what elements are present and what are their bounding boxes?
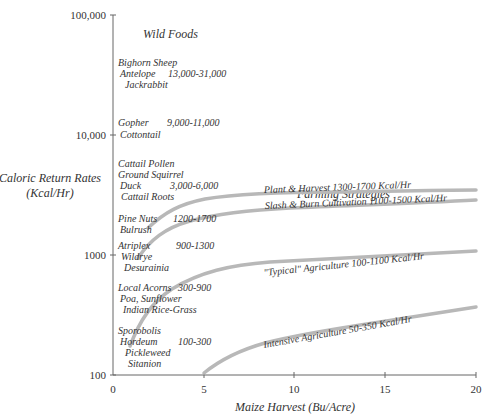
svg-text:3,000-6,000: 3,000-6,000 bbox=[169, 180, 218, 191]
x-axis-label: Maize Harvest (Bu/Acre) bbox=[234, 400, 355, 414]
svg-text:Desurainia: Desurainia bbox=[123, 262, 169, 273]
y-axis-label-line2: (Kcal/Hr) bbox=[26, 186, 73, 200]
svg-text:Pine Nuts: Pine Nuts bbox=[117, 213, 157, 224]
y-tick-label: 1000 bbox=[84, 249, 107, 261]
curve-intensive-agriculture bbox=[204, 307, 476, 373]
y-tick-label: 10,000 bbox=[76, 129, 107, 141]
svg-text:Sporobolis: Sporobolis bbox=[118, 325, 161, 336]
y-tick-label: 100,000 bbox=[70, 9, 106, 21]
svg-text:Jackrabbit: Jackrabbit bbox=[125, 79, 168, 90]
y-ticks: 100,000 10,000 1000 100 bbox=[70, 9, 116, 381]
x-tick-label: 0 bbox=[110, 383, 116, 395]
svg-text:Bighorn Sheep: Bighorn Sheep bbox=[118, 57, 177, 68]
x-tick-label: 20 bbox=[471, 383, 483, 395]
svg-text:Pickleweed: Pickleweed bbox=[124, 347, 172, 358]
svg-text:Gopher: Gopher bbox=[118, 117, 149, 128]
y-axis-label-line1: Caloric Return Rates bbox=[0, 171, 101, 185]
svg-text:Ground Squirrel: Ground Squirrel bbox=[118, 169, 184, 180]
svg-text:1200-1700: 1200-1700 bbox=[173, 213, 216, 224]
wild-foods-labels: Bighorn Sheep Antelope 13,000-31,000 Jac… bbox=[117, 57, 226, 369]
svg-text:Cottontail: Cottontail bbox=[120, 129, 161, 140]
svg-text:Local Acorns: Local Acorns bbox=[117, 282, 172, 293]
svg-text:Indian Rice-Grass: Indian Rice-Grass bbox=[122, 304, 197, 315]
y-tick-label: 100 bbox=[90, 369, 107, 381]
svg-text:300-900: 300-900 bbox=[177, 282, 211, 293]
svg-text:Wildrye: Wildrye bbox=[121, 251, 153, 262]
svg-text:Cattail Pollen: Cattail Pollen bbox=[118, 158, 174, 169]
x-tick-label: 5 bbox=[201, 383, 207, 395]
svg-text:Cattail Roots: Cattail Roots bbox=[121, 191, 174, 202]
label-intensive-agriculture: Intensive Agriculture 50-350 Kcal/Hr bbox=[261, 313, 412, 350]
svg-text:13,000-31,000: 13,000-31,000 bbox=[168, 68, 226, 79]
wild-foods-title: Wild Foods bbox=[143, 27, 198, 41]
svg-text:Antelope: Antelope bbox=[119, 68, 156, 79]
svg-text:900-1300: 900-1300 bbox=[176, 240, 214, 251]
svg-text:Poa, Sunflower: Poa, Sunflower bbox=[119, 293, 182, 304]
svg-text:Sitanion: Sitanion bbox=[128, 358, 161, 369]
svg-text:Hordeum: Hordeum bbox=[119, 336, 157, 347]
svg-text:100-300: 100-300 bbox=[178, 336, 211, 347]
svg-text:9,000-11,000: 9,000-11,000 bbox=[167, 117, 220, 128]
label-typical-agriculture: "Typical" Agriculture 100-1100 Kcal/Hr bbox=[263, 250, 424, 278]
chart: 100,000 10,000 1000 100 0 5 10 15 20 Mai… bbox=[0, 0, 490, 418]
x-tick-label: 15 bbox=[380, 383, 392, 395]
svg-text:Duck: Duck bbox=[119, 180, 142, 191]
svg-text:Bulrush: Bulrush bbox=[120, 224, 152, 235]
svg-text:Atriplex: Atriplex bbox=[117, 240, 151, 251]
x-tick-label: 10 bbox=[289, 383, 301, 395]
